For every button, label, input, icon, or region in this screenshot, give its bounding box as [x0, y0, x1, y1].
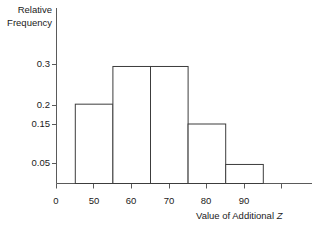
histogram-figure: Relative Frequency 0.3 0.2 0.15 0.05 0 5…	[0, 0, 332, 231]
histogram-bar	[151, 66, 189, 183]
histogram-plot-area	[0, 0, 332, 231]
histogram-bar	[188, 124, 226, 184]
histogram-bar	[113, 66, 151, 183]
histogram-bar	[75, 104, 113, 183]
histogram-bars	[75, 66, 263, 183]
histogram-bar	[226, 164, 264, 183]
